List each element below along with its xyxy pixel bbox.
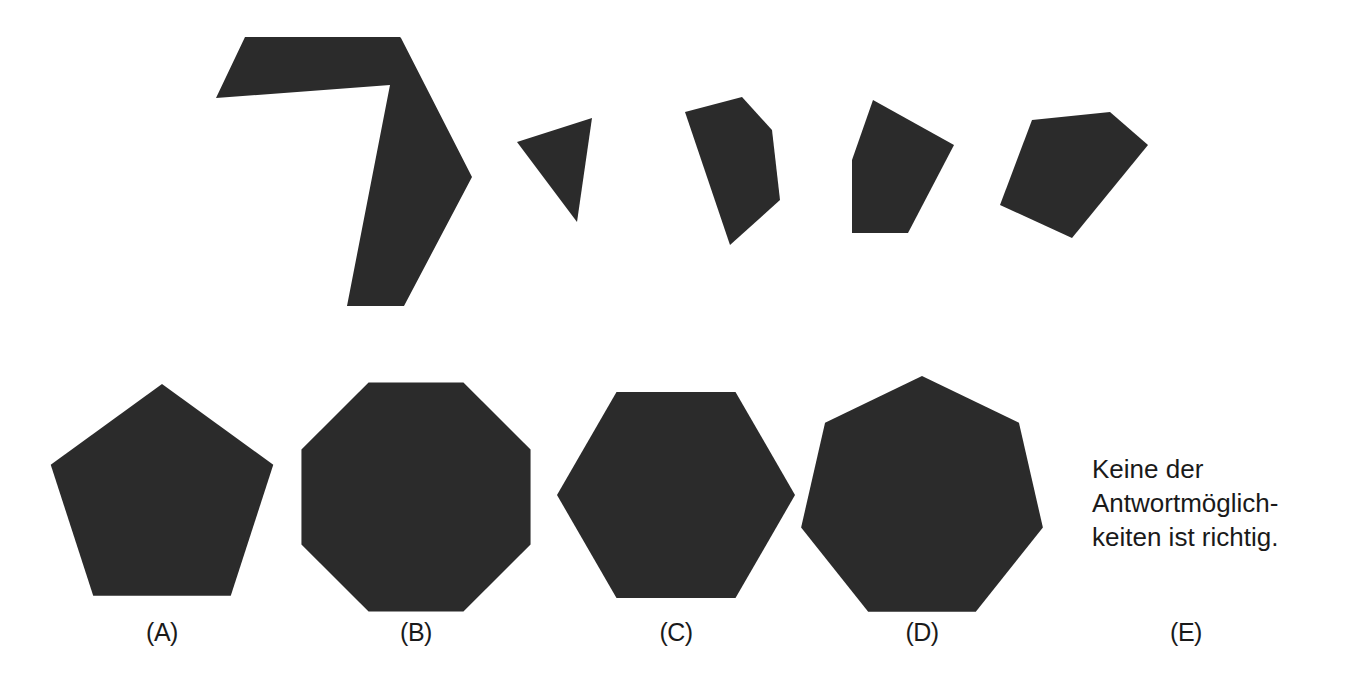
option-shape-a[interactable] (51, 384, 274, 596)
option-label-c[interactable]: (C) (636, 618, 716, 647)
piece-main-arrow (216, 37, 472, 306)
option-shape-c[interactable] (557, 392, 795, 598)
option-shape-b[interactable] (301, 382, 530, 611)
puzzle-page: (A)(B)(C)(D)(E) Keine derAntwortmöglich-… (0, 0, 1366, 698)
option-shape-d[interactable] (801, 376, 1043, 612)
piece-kite (1000, 112, 1148, 238)
none-of-the-above-line-2: Antwortmöglich- (1092, 486, 1342, 520)
none-of-the-above-text: Keine derAntwortmöglich-keiten ist richt… (1092, 452, 1342, 554)
prompt-pieces-group (216, 37, 1148, 306)
option-label-d[interactable]: (D) (882, 618, 962, 647)
option-label-e[interactable]: (E) (1146, 618, 1226, 647)
piece-quad-fan (852, 100, 954, 233)
none-of-the-above-line-1: Keine der (1092, 452, 1342, 486)
option-label-a[interactable]: (A) (122, 618, 202, 647)
figure-canvas (0, 0, 1366, 698)
option-shapes-group (51, 376, 1043, 612)
none-of-the-above-line-3: keiten ist richtig. (1092, 520, 1342, 554)
piece-triangle (517, 118, 592, 222)
piece-pentagon-tall (685, 97, 780, 245)
option-label-b[interactable]: (B) (376, 618, 456, 647)
